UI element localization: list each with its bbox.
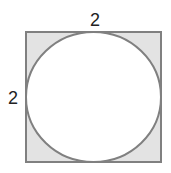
left-side-label: 2 (8, 88, 18, 108)
top-side-label: 2 (90, 10, 100, 30)
inscribed-circle-diagram: 2 2 (0, 0, 171, 173)
inscribed-circle (26, 32, 161, 162)
